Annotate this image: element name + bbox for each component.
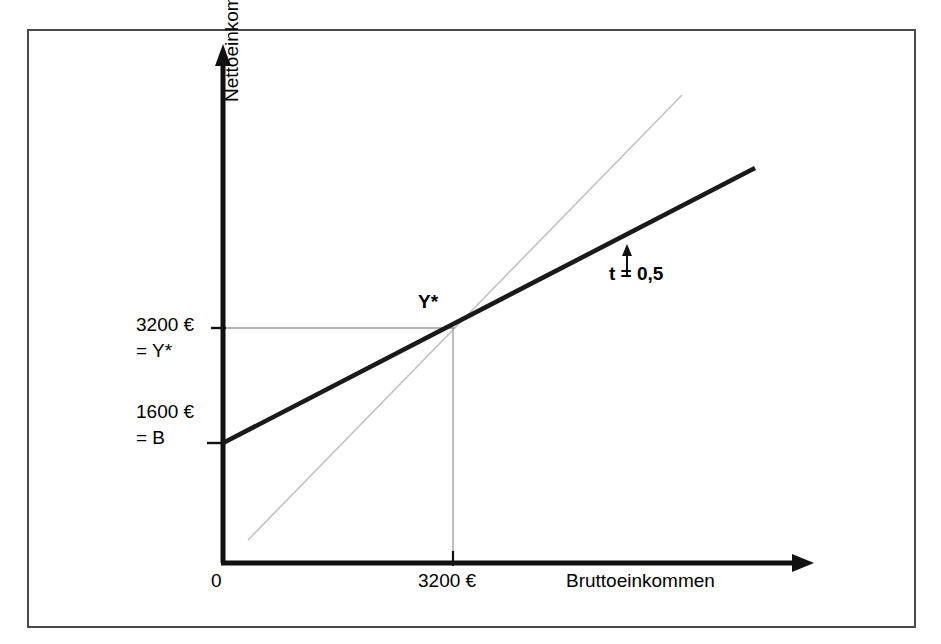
x-axis-title: Bruttoeinkommen [566, 570, 715, 592]
x-tick-label-3200: 3200 € [418, 570, 476, 592]
y-tick-label-3200-sub: = Y* [136, 340, 172, 362]
intersection-label: Y* [418, 291, 438, 313]
chart-page: Nettoeinkommen Bruttoeinkommen 0 3200 € … [0, 0, 941, 644]
x-axis-arrowhead [792, 554, 814, 572]
y-tick-label-1600: 1600 € [136, 401, 194, 423]
y-axis-title: Nettoeinkommen [176, 72, 288, 102]
slope-annotation-label: t = 0,5 [609, 263, 663, 285]
x-tick-label-zero: 0 [211, 570, 222, 592]
y-axis-title-text: Nettoeinkommen [221, 72, 243, 102]
y-tick-label-3200: 3200 € [136, 314, 194, 336]
y-tick-label-1600-sub: = B [136, 427, 165, 449]
net-income-line [223, 168, 755, 443]
slope-callout-arrow-head [622, 244, 632, 256]
